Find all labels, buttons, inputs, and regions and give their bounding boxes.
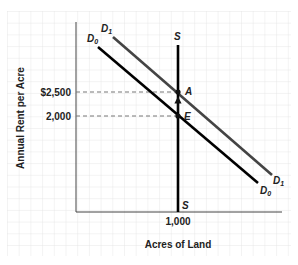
point-e-label: E <box>184 111 191 122</box>
y-tick-2500: $2,500 <box>40 87 71 98</box>
y-tick-2000: 2,000 <box>46 111 71 122</box>
point-a-label: A <box>184 86 192 97</box>
point-a-dot <box>175 89 180 94</box>
point-e-dot <box>175 113 180 118</box>
x-tick-1000: 1,000 <box>165 216 190 227</box>
x-axis-title: Acres of Land <box>145 239 212 250</box>
rent-chart: S S A E D1 D0 D1 D0 $2,500 2,000 1,000 A… <box>0 0 298 265</box>
supply-label-top: S <box>174 31 181 42</box>
grid-background <box>7 11 291 256</box>
supply-label-bottom: S <box>182 200 189 211</box>
y-axis-title: Annual Rent per Acre <box>15 67 26 169</box>
